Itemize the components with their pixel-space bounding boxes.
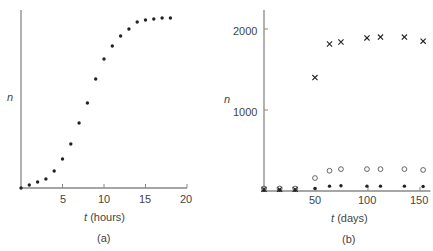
data-point (28, 183, 31, 186)
cross-marker (421, 39, 426, 44)
data-point (36, 180, 39, 183)
panel-a-xtick-15: 15 (139, 193, 151, 205)
data-point (119, 34, 122, 37)
panel-a-xtick-10: 10 (98, 193, 110, 205)
panel-b-xlabel: t (days) (331, 212, 368, 224)
dot-marker (262, 188, 265, 191)
panel-a-caption: (a) (97, 232, 110, 244)
data-point (136, 20, 139, 23)
panel-b-ytick-1000: 1000 (233, 106, 257, 118)
open-circle-marker (313, 176, 318, 181)
open-circle-marker (402, 167, 407, 172)
cross-marker (327, 41, 332, 46)
data-point (77, 121, 80, 124)
panel-a-xunit: (hours) (90, 211, 125, 223)
dot-marker (421, 185, 424, 188)
panel-b-ytick-2000: 2000 (233, 25, 257, 37)
data-point (44, 177, 47, 180)
data-point (169, 16, 172, 19)
dot-marker (379, 184, 382, 187)
data-point (144, 18, 147, 21)
panel-b-xtick-100: 100 (358, 194, 376, 206)
dot-marker (313, 187, 316, 190)
dot-marker (403, 184, 406, 187)
panel-a-ylabel: n (7, 91, 13, 103)
data-point (111, 44, 114, 47)
open-circle-marker (421, 168, 426, 173)
panel-b-xvar: t (331, 212, 334, 224)
data-point (69, 142, 72, 145)
cross-marker (312, 75, 317, 80)
cross-marker (378, 35, 383, 40)
data-point (94, 77, 97, 80)
data-point (102, 57, 105, 60)
open-circle-marker (339, 167, 344, 172)
panel-b-xtick-50: 50 (309, 194, 321, 206)
panel-b-ylabel: n (224, 93, 230, 105)
data-point (53, 169, 56, 172)
data-point (160, 16, 163, 19)
cross-marker (338, 39, 343, 44)
cross-marker (364, 35, 369, 40)
open-circle-marker (365, 167, 370, 172)
data-point (61, 157, 64, 160)
panel-a-xvar: t (84, 211, 87, 223)
dot-marker (278, 188, 281, 191)
dot-marker (339, 184, 342, 187)
panel-a-xtick-5: 5 (60, 193, 66, 205)
panel-b-xtick-150: 150 (410, 194, 428, 206)
dot-marker (294, 188, 297, 191)
panel-a-xtick-20: 20 (180, 193, 192, 205)
panel-b-caption: (b) (342, 233, 355, 245)
panel-b-xunit: (days) (337, 212, 368, 224)
data-point (86, 101, 89, 104)
dot-marker (328, 184, 331, 187)
open-circle-marker (378, 167, 383, 172)
panel-a-xlabel: t (hours) (84, 211, 125, 223)
figure-canvas (0, 0, 433, 251)
dot-marker (365, 184, 368, 187)
cross-marker (402, 35, 407, 40)
data-point (127, 27, 130, 30)
data-point (152, 17, 155, 20)
data-point (19, 186, 22, 189)
open-circle-marker (327, 168, 332, 173)
